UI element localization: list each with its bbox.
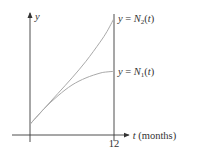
- series-line-n2: [30, 18, 114, 124]
- series-label-n2: y = N2(t): [117, 13, 155, 27]
- series-label-n1: y = N1(t): [117, 66, 155, 80]
- x-axis-label: t (months): [133, 130, 177, 142]
- x-tick-label: 12: [109, 138, 120, 149]
- chart: y t (months) 12 y = N2(t)y = N1(t): [0, 0, 206, 153]
- series-line-n1: [30, 71, 114, 124]
- series-group: [30, 18, 114, 124]
- y-axis-label: y: [34, 11, 40, 22]
- series-labels: y = N2(t)y = N1(t): [117, 13, 155, 79]
- x-axis-label-unit: (months): [138, 130, 176, 142]
- x-ticks: 12: [109, 138, 120, 149]
